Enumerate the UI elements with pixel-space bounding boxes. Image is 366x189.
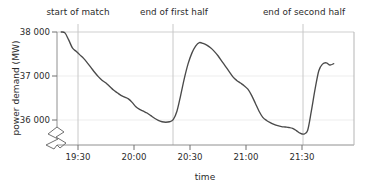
- x-tick-marks: [78, 145, 302, 150]
- x-tick-label-2000: 20:00: [121, 152, 146, 162]
- power-demand-chart-figure: start of match end of first half end of …: [0, 0, 366, 189]
- y-axis-break-symbol: [46, 127, 66, 149]
- annotation-lines: [78, 24, 303, 145]
- annotation-label-end-of-second-half: end of second half: [263, 7, 345, 17]
- axis-spines: [57, 32, 354, 145]
- x-axis-title: time: [195, 172, 216, 182]
- axis-break-zigzag: [46, 127, 58, 149]
- y-tick-marks: [52, 32, 57, 120]
- y-axis-title: power demand (MW): [11, 40, 21, 135]
- annotation-label-start-of-match: start of match: [46, 7, 109, 17]
- power-demand-line: [61, 32, 334, 134]
- annotation-label-end-of-first-half: end of first half: [140, 7, 208, 17]
- x-tick-label-1930: 19:30: [65, 152, 90, 162]
- y-tick-label-38000: 38 000: [4, 27, 50, 37]
- x-tick-label-2100: 21:00: [233, 152, 258, 162]
- x-tick-label-2030: 20:30: [177, 152, 202, 162]
- x-tick-label-2130: 21:30: [289, 152, 314, 162]
